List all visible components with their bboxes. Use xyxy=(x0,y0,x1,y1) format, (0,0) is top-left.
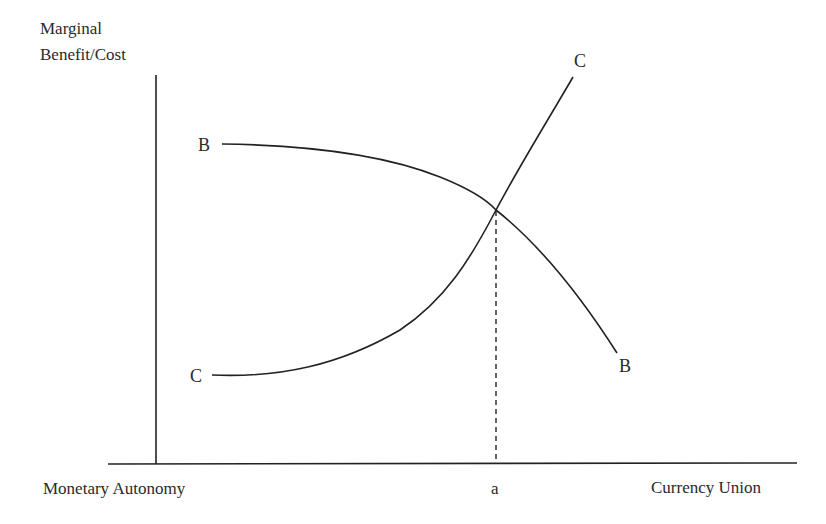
x-axis-label-right: Currency Union xyxy=(651,478,762,497)
cost-curve-label-end: C xyxy=(574,51,586,71)
cost-curve xyxy=(212,77,573,375)
y-axis-label-line2: Benefit/Cost xyxy=(40,45,126,64)
diagram-canvas: Marginal Benefit/Cost Monetary Autonomy … xyxy=(0,0,826,524)
cost-curve-label-start: C xyxy=(190,366,202,386)
benefit-curve-label-end: B xyxy=(619,356,631,376)
y-axis-label-line1: Marginal xyxy=(40,19,102,38)
benefit-curve-label-start: B xyxy=(198,135,210,155)
x-axis-label-left: Monetary Autonomy xyxy=(43,479,186,498)
benefit-curve xyxy=(222,144,617,353)
x-marker-label: a xyxy=(491,479,499,498)
x-axis xyxy=(108,463,797,464)
